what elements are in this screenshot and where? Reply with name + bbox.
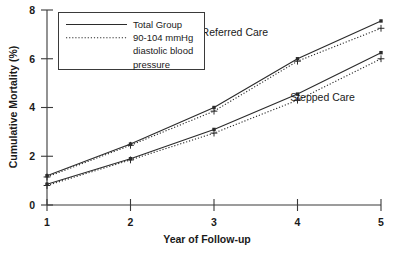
y-tick-label: 2	[29, 150, 35, 162]
x-tick-label: 1	[44, 216, 50, 228]
x-tick-label: 4	[295, 216, 301, 228]
legend-entry-label: Total Group	[133, 19, 182, 30]
y-axis-title: Cumulative Mortality (%)	[7, 46, 19, 169]
x-tick-label: 5	[378, 216, 384, 228]
legend-entry-label: diastolic blood	[133, 45, 193, 56]
y-tick-label: 6	[29, 53, 35, 65]
y-tick-label: 8	[29, 4, 35, 16]
cumulative-mortality-line-chart: 02468 12345 Referred CareStepped Care To…	[0, 0, 410, 257]
y-tick-label: 0	[29, 199, 35, 211]
data-point-marker	[379, 51, 382, 54]
legend-entry-label: pressure	[133, 59, 170, 70]
series-annotation-label: Referred Care	[202, 26, 269, 38]
series-annotation-label: Stepped Care	[290, 91, 355, 103]
x-tick-label: 3	[211, 216, 217, 228]
x-axis-title: Year of Follow-up	[163, 233, 251, 245]
data-point-marker	[379, 19, 382, 22]
y-tick-label: 4	[29, 101, 35, 113]
legend-entry-label: 90-104 mmHg	[133, 32, 193, 43]
legend: Total Group90-104 mmHgdiastolic bloodpre…	[59, 13, 205, 70]
x-tick-label: 2	[128, 216, 134, 228]
